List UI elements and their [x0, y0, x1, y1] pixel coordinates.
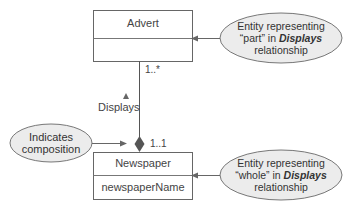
whole-note-emphasis: Displays	[284, 169, 327, 181]
part-note-text: Entity representing “part” in Displays r…	[220, 20, 342, 56]
part-note-line3: relationship	[220, 44, 342, 56]
part-note-line2: “part” in Displays	[220, 32, 342, 44]
whole-note-line3: relationship	[220, 181, 342, 193]
part-note-line1: Entity representing	[220, 20, 342, 32]
part-note-emphasis: Displays	[279, 32, 322, 44]
whole-note-text: Entity representing “whole” in Displays …	[220, 157, 342, 193]
newspaper-attribute: newspaperName	[93, 181, 193, 193]
part-note-line2-pre: “part” in	[240, 32, 279, 44]
composition-note-line1: Indicates	[10, 131, 92, 143]
association-name: Displays	[98, 101, 140, 113]
composition-note-arrowhead-icon	[120, 141, 127, 147]
newspaper-class-name: Newspaper	[93, 157, 193, 169]
composition-note-text: Indicates composition	[10, 131, 92, 155]
whole-note-line2-pre: “whole” in	[235, 169, 283, 181]
composition-note-line2: composition	[10, 143, 92, 155]
whole-note-line2: “whole” in Displays	[220, 169, 342, 181]
direction-triangle-icon	[123, 93, 129, 99]
whole-note-line1: Entity representing	[220, 157, 342, 169]
composition-diamond-icon	[135, 136, 145, 152]
newspaper-multiplicity: 1..1	[150, 138, 167, 149]
advert-multiplicity: 1..*	[145, 64, 160, 75]
advert-class-name: Advert	[93, 17, 193, 29]
